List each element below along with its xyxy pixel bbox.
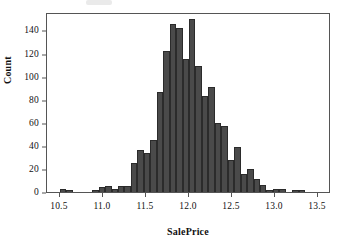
histogram-bar	[299, 190, 305, 192]
x-tick-mark	[145, 193, 146, 197]
y-tick-label: 0	[34, 188, 39, 198]
x-tick-label: 13.0	[265, 202, 282, 212]
histogram-bar	[195, 66, 201, 192]
x-tick-label: 13.5	[308, 202, 325, 212]
histogram-bar	[105, 186, 111, 192]
histogram-bar	[176, 28, 182, 192]
x-tick-label: 12.0	[179, 202, 196, 212]
histogram-figure: 020406080100120140 10.511.011.512.012.51…	[0, 0, 343, 246]
y-tick-label: 20	[29, 165, 39, 175]
y-tick-label: 120	[24, 50, 39, 60]
x-tick-mark	[188, 193, 189, 197]
y-tick-label: 140	[24, 27, 39, 37]
histogram-bar	[124, 186, 130, 192]
histogram-bar	[66, 190, 72, 192]
histogram-bar	[266, 190, 272, 192]
x-tick-label: 10.5	[50, 202, 67, 212]
y-tick-label: 80	[29, 96, 39, 106]
x-tick-label: 12.5	[222, 202, 239, 212]
y-axis: 020406080100120140	[0, 13, 46, 193]
y-tick-label: 100	[24, 73, 39, 83]
y-axis-title: Count	[2, 56, 13, 84]
histogram-bar	[247, 169, 253, 192]
plot-frame	[46, 13, 330, 193]
x-axis: 10.511.011.512.012.513.013.5	[46, 193, 330, 223]
y-tick-label: 60	[29, 119, 39, 129]
plot-area	[47, 14, 329, 192]
x-axis-title: SalePrice	[46, 226, 330, 237]
x-tick-label: 11.0	[93, 202, 110, 212]
x-tick-mark	[317, 193, 318, 197]
x-tick-mark	[231, 193, 232, 197]
x-tick-mark	[274, 193, 275, 197]
y-tick-label: 40	[29, 142, 39, 152]
x-tick-mark	[59, 193, 60, 197]
scan-artifact	[86, 0, 112, 5]
histogram-bar	[279, 189, 285, 192]
x-tick-mark	[102, 193, 103, 197]
x-tick-label: 11.5	[136, 202, 153, 212]
